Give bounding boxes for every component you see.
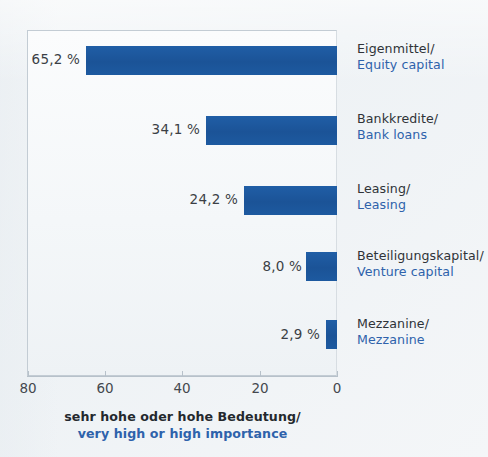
category-label-de: Mezzanine/ bbox=[357, 316, 488, 332]
x-axis-tick bbox=[28, 371, 29, 377]
category-label-de: Leasing/ bbox=[357, 181, 488, 197]
value-label-leasing: 24,2 % bbox=[158, 191, 238, 207]
chart-page: 65,2 % 34,1 % 24,2 % 8,0 % 2,9 % Eigenmi… bbox=[0, 0, 488, 457]
value-label-eigenmittel: 65,2 % bbox=[0, 51, 80, 67]
category-label-eigenmittel: Eigenmittel/ Equity capital bbox=[357, 41, 488, 73]
x-axis-tick bbox=[260, 371, 261, 377]
category-label-leasing: Leasing/ Leasing bbox=[357, 181, 488, 213]
category-label-de: Beteiligungskapital/ bbox=[357, 248, 488, 264]
category-label-en: Mezzanine bbox=[357, 332, 488, 348]
category-label-en: Venture capital bbox=[357, 264, 488, 280]
category-label-mezzanine: Mezzanine/ Mezzanine bbox=[357, 316, 488, 348]
value-label-bankkredite: 34,1 % bbox=[120, 121, 200, 137]
x-axis-tick-label-60: 60 bbox=[96, 380, 113, 396]
bar-mezzanine bbox=[326, 320, 337, 349]
value-label-mezzanine: 2,9 % bbox=[240, 326, 320, 342]
category-label-en: Bank loans bbox=[357, 127, 488, 143]
category-label-beteiligungskapital: Beteiligungskapital/ Venture capital bbox=[357, 248, 488, 280]
x-axis-tick-label-40: 40 bbox=[173, 380, 190, 396]
category-label-bankkredite: Bankkredite/ Bank loans bbox=[357, 111, 488, 143]
category-label-de: Bankkredite/ bbox=[357, 111, 488, 127]
x-axis-tick bbox=[182, 371, 183, 377]
x-axis-tick-label-0: 0 bbox=[333, 380, 342, 396]
x-axis-tick bbox=[105, 371, 106, 377]
x-axis-title-en: very high or high importance bbox=[27, 425, 338, 442]
x-axis-tick bbox=[337, 371, 338, 377]
bar-eigenmittel bbox=[86, 46, 337, 75]
x-axis-title: sehr hohe oder hohe Bedeutung/ very high… bbox=[27, 408, 338, 442]
bar-beteiligungskapital bbox=[306, 252, 337, 281]
category-label-en: Leasing bbox=[357, 197, 488, 213]
bar-leasing bbox=[244, 186, 337, 215]
bar-bankkredite bbox=[206, 116, 337, 145]
x-axis-title-de: sehr hohe oder hohe Bedeutung/ bbox=[27, 408, 338, 425]
value-label-beteiligungskapital: 8,0 % bbox=[222, 258, 302, 274]
category-label-en: Equity capital bbox=[357, 57, 488, 73]
category-label-de: Eigenmittel/ bbox=[357, 41, 488, 57]
x-axis-tick-label-80: 80 bbox=[19, 380, 36, 396]
x-axis-tick-label-20: 20 bbox=[251, 380, 268, 396]
